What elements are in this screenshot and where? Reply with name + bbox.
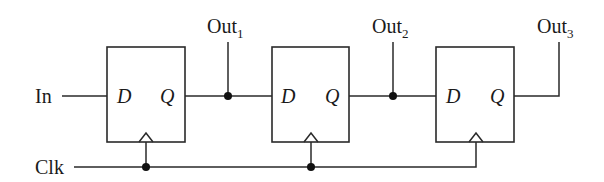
flip-flop-1-d-pin: D xyxy=(116,85,132,107)
flip-flop-1-q-pin: Q xyxy=(160,85,175,107)
flip-flop-3: D Q xyxy=(436,47,514,142)
flip-flop-3-q-pin: Q xyxy=(490,85,505,107)
out3-label: Out3 xyxy=(537,15,574,41)
clk-label: Clk xyxy=(35,156,64,178)
shift-register-diagram: In D Q Out1 D Q Out2 D Q Out3 Clk xyxy=(0,0,604,182)
flip-flop-2: D Q xyxy=(272,47,349,142)
flip-flop-2-q-pin: Q xyxy=(325,85,340,107)
junction-dot xyxy=(224,92,232,100)
flip-flop-2-d-pin: D xyxy=(280,85,296,107)
clk-wire xyxy=(74,142,476,167)
junction-dot xyxy=(389,92,397,100)
out3-wire xyxy=(514,42,559,96)
flip-flop-1: D Q xyxy=(107,47,185,142)
flip-flop-3-d-pin: D xyxy=(445,85,461,107)
out1-label: Out1 xyxy=(207,15,244,41)
in-label: In xyxy=(35,85,52,107)
junction-dot xyxy=(142,163,150,171)
out2-label: Out2 xyxy=(372,15,409,41)
junction-dot xyxy=(307,163,315,171)
